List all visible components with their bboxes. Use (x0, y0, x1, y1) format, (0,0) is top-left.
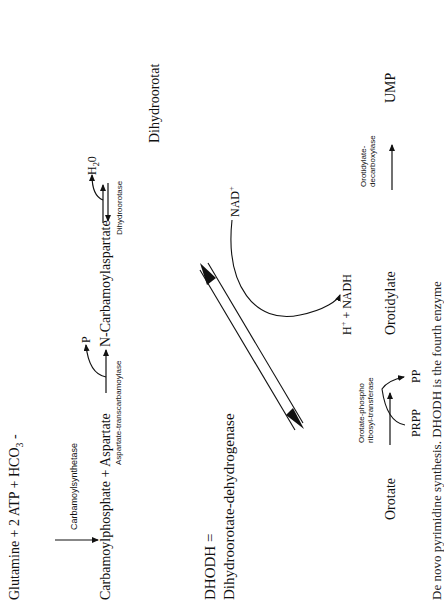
water-label: H20 (86, 156, 102, 175)
dhodh-forward-line (208, 263, 303, 423)
phosphate-label: P (80, 336, 92, 343)
nad-plus-label: NAD+ (228, 186, 241, 217)
glutamine-reactants: Glutamine + 2 ATP + HCO3 - (8, 434, 25, 600)
dihydroorotat: Dihydroorotat (148, 64, 162, 143)
aspartate-transcarbamoylase-label: Aspartate-transcarbamoylase (115, 361, 124, 466)
odc-label: Orotidylate- decarboxylase (360, 135, 378, 187)
dhodh-abbrev: DHODH = (203, 534, 219, 600)
orotate: Orotate (384, 478, 398, 520)
water-release-arc (92, 175, 103, 200)
prpp-pp-arc (382, 377, 405, 425)
prpp-label: PRPP (410, 409, 422, 437)
figure-caption: De novo pyrimidine synthesis. DHODH is t… (430, 281, 443, 600)
orotidylate: Orotidylate (384, 271, 398, 335)
dhodh-reverse-line (200, 270, 295, 430)
h-plus-nadh-label: H+ + NADH (340, 274, 353, 335)
pp-label: PP (410, 370, 422, 383)
oprt-label: Orotate-phospho ribosyl-transferase (358, 377, 376, 443)
dihydroorotase-label: Dihydroorotase (116, 181, 125, 235)
carbamoylsynthetase-label: Carbamoylsynthetase (70, 443, 79, 530)
ump: UMP (384, 73, 398, 103)
dhodh-full-name: Dihydroorotate-dehydrogenase (222, 413, 238, 600)
nad-nadh-arc (231, 220, 340, 317)
n-carbamoylaspartate: N-Carbamoylaspartate (99, 220, 113, 347)
phosphate-release-arc (86, 345, 106, 377)
carbamoylphosphate-aspartate: Carbamoylphosphate + Aspartate (99, 413, 113, 600)
